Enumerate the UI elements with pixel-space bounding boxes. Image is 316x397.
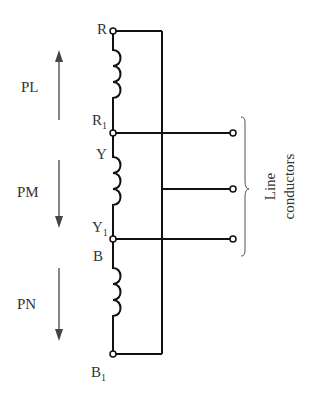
label-pl: PL xyxy=(21,80,39,95)
terminal-r1-y xyxy=(110,130,116,136)
terminal-y1-b xyxy=(110,236,116,242)
coil-pn xyxy=(113,239,121,354)
coil-pm xyxy=(113,133,121,239)
label-r: R xyxy=(97,22,107,37)
terminal-b1 xyxy=(110,351,116,357)
label-r1: R1 xyxy=(92,113,107,131)
brace-icon xyxy=(241,117,249,256)
label-line: Line xyxy=(262,147,279,227)
coil-pl xyxy=(113,31,121,133)
label-pm: PM xyxy=(17,185,39,200)
line-terminal-3 xyxy=(230,236,236,242)
label-y: Y xyxy=(96,147,107,162)
label-b: B xyxy=(93,249,103,264)
label-y1: Y1 xyxy=(92,220,108,238)
terminal-r xyxy=(110,28,116,34)
line-terminal-2 xyxy=(230,186,236,192)
arrow-up-icon xyxy=(55,50,63,62)
arrow-down-icon xyxy=(55,329,63,341)
label-conductors: conductors xyxy=(281,147,298,227)
line-terminal-1 xyxy=(230,130,236,136)
label-pn: PN xyxy=(17,297,36,312)
arrow-down-icon xyxy=(55,216,63,228)
label-b1: B1 xyxy=(91,365,106,383)
